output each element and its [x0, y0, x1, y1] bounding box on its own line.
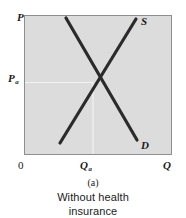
caption-line-1: Without health — [0, 191, 186, 203]
equilibrium-price-label: Pa — [8, 73, 18, 84]
demand-curve-label: D — [141, 140, 149, 151]
equilibrium-price-subscript: a — [15, 78, 18, 85]
y-axis-label: P — [17, 12, 24, 23]
x-axis-label: Q — [163, 160, 171, 171]
origin-label: 0 — [18, 160, 24, 171]
equilibrium-quantity-letter: Q — [80, 159, 88, 171]
supply-demand-figure: P Pa 0 Qa Q S D (a) Without health insur… — [0, 0, 186, 218]
equilibrium-price-letter: P — [8, 72, 15, 84]
caption-line-2: insurance — [0, 205, 186, 217]
equilibrium-quantity-subscript: a — [88, 165, 91, 172]
supply-curve-label: S — [141, 16, 147, 27]
equilibrium-quantity-label: Qa — [80, 160, 91, 171]
plot-area — [24, 15, 172, 155]
panel-label: (a) — [0, 177, 186, 188]
